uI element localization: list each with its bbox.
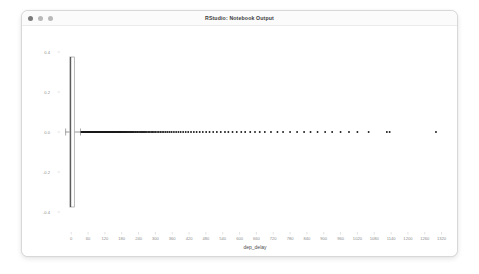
x-tick-label: 420	[186, 236, 193, 241]
x-tick-label: 300	[152, 236, 159, 241]
x-tick-label: 660	[253, 236, 260, 241]
outlier-point	[171, 131, 173, 133]
outlier-point	[196, 131, 198, 133]
boxplot-svg	[22, 26, 457, 257]
outlier-point	[303, 131, 305, 133]
x-tick-label: 1320	[437, 236, 446, 241]
x-tick-label: 1080	[370, 236, 379, 241]
outlier-point	[154, 131, 156, 133]
outlier-point	[324, 131, 326, 133]
plot-canvas	[22, 26, 457, 257]
outlier-point	[348, 131, 350, 133]
x-tick-label: 120	[101, 236, 108, 241]
x-tick-label: 480	[202, 236, 209, 241]
plot-body: 0.40.20.0-0.2-0.406012018024030036042048…	[22, 26, 457, 257]
rstudio-notebook-output-window: RStudio: Notebook Output 0.40.20.0-0.2-0…	[21, 10, 458, 257]
outlier-point	[386, 131, 388, 133]
outlier-point	[169, 131, 171, 133]
x-tick-label: 900	[320, 236, 327, 241]
x-tick-label: 720	[270, 236, 277, 241]
x-tick-label: 780	[287, 236, 294, 241]
outlier-points-group	[80, 131, 437, 133]
outlier-point	[167, 131, 169, 133]
outlier-point	[220, 131, 222, 133]
x-tick-label: 240	[135, 236, 142, 241]
outlier-point	[331, 131, 333, 133]
x-tick-label: 600	[236, 236, 243, 241]
x-tick-label: 960	[337, 236, 344, 241]
outlier-point	[202, 131, 204, 133]
outlier-point	[156, 131, 158, 133]
outlier-point	[209, 131, 211, 133]
outlier-point	[182, 131, 184, 133]
x-tick-label: 1020	[353, 236, 362, 241]
outlier-point	[165, 131, 167, 133]
x-tick-label: 0	[70, 236, 72, 241]
outlier-point	[187, 131, 189, 133]
outlier-point	[317, 131, 319, 133]
outlier-point	[175, 131, 177, 133]
y-tick-label: 0.4	[24, 50, 50, 55]
outlier-point	[270, 131, 272, 133]
outlier-point	[159, 131, 161, 133]
outlier-point	[356, 131, 358, 133]
y-tick-label: 0.2	[24, 90, 50, 95]
x-tick-label: 180	[118, 236, 125, 241]
x-tick-label: 60	[86, 236, 91, 241]
x-tick-label: 540	[219, 236, 226, 241]
outlier-point	[389, 131, 391, 133]
y-tick-label: -0.4	[24, 210, 50, 215]
screenshot-root: RStudio: Notebook Output 0.40.20.0-0.2-0…	[0, 0, 479, 274]
outlier-point	[282, 131, 284, 133]
outlier-point	[236, 131, 238, 133]
outlier-point	[232, 131, 234, 133]
outlier-point	[190, 131, 192, 133]
outlier-point	[289, 131, 291, 133]
outlier-point	[249, 131, 251, 133]
outlier-point	[216, 131, 218, 133]
outlier-point	[163, 131, 165, 133]
x-tick-label: 1200	[403, 236, 412, 241]
outlier-point	[177, 131, 179, 133]
outlier-point	[161, 131, 163, 133]
outlier-point	[254, 131, 256, 133]
outlier-point	[227, 131, 229, 133]
outlier-point	[158, 131, 160, 133]
outlier-point	[310, 131, 312, 133]
outlier-point	[296, 131, 298, 133]
outlier-point	[368, 131, 370, 133]
outlier-point	[193, 131, 195, 133]
outlier-point	[173, 131, 175, 133]
x-tick-label: 360	[169, 236, 176, 241]
window-titlebar[interactable]: RStudio: Notebook Output	[22, 11, 457, 26]
outlier-point	[199, 131, 201, 133]
outlier-point	[276, 131, 278, 133]
y-tick-label: 0.0	[24, 130, 50, 135]
window-title: RStudio: Notebook Output	[22, 14, 457, 22]
outlier-point	[212, 131, 214, 133]
outlier-point	[185, 131, 187, 133]
outlier-point	[435, 131, 437, 133]
outlier-point	[224, 131, 226, 133]
outlier-point	[264, 131, 266, 133]
outlier-point	[180, 131, 182, 133]
x-tick-label: 1260	[420, 236, 429, 241]
y-tick-label: -0.2	[24, 170, 50, 175]
outlier-point	[259, 131, 261, 133]
x-axis-title: dep_delay	[243, 244, 266, 250]
outlier-point	[244, 131, 246, 133]
outlier-point	[240, 131, 242, 133]
outlier-point	[340, 131, 342, 133]
x-tick-label: 840	[303, 236, 310, 241]
x-tick-label: 1140	[387, 236, 396, 241]
outlier-point	[205, 131, 207, 133]
